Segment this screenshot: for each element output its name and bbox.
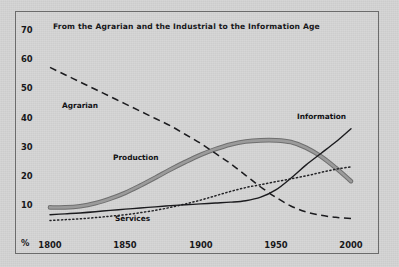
series-label-services: Services	[115, 214, 150, 223]
y-axis-tick-50: 50	[21, 83, 45, 93]
y-axis-tick-40: 40	[21, 113, 45, 123]
x-axis-tick-1850: 1850	[105, 240, 145, 250]
y-axis-tick-70: 70	[21, 25, 45, 35]
y-axis-tick-60: 60	[21, 54, 45, 64]
plot-frame	[15, 11, 379, 254]
y-axis-tick-20: 20	[21, 171, 45, 181]
series-label-agrarian: Agrarian	[62, 101, 98, 110]
y-axis-tick-10: 10	[21, 200, 45, 210]
x-axis-tick-1950: 1950	[256, 240, 296, 250]
y-axis-label: %	[21, 238, 29, 248]
x-axis-tick-2000: 2000	[331, 240, 371, 250]
y-axis-tick-30: 30	[21, 142, 45, 152]
chart-title: From the Agrarian and the Industrial to …	[53, 22, 320, 31]
series-label-production: Production	[113, 153, 158, 162]
chart-container: From the Agrarian and the Industrial to …	[0, 0, 399, 267]
x-axis-tick-1800: 1800	[30, 240, 70, 250]
series-label-information: Information	[297, 112, 346, 121]
x-axis-tick-1900: 1900	[181, 240, 221, 250]
